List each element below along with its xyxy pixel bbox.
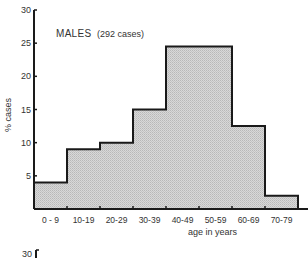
x-tick-label: 60-69 — [238, 215, 260, 225]
chart-title: MALES — [56, 28, 91, 39]
x-tick-label: 40-49 — [172, 215, 194, 225]
histogram-bar — [265, 196, 299, 209]
x-tick-label: 30-39 — [139, 215, 161, 225]
next-panel-axis — [36, 250, 39, 258]
histogram-bar — [166, 46, 200, 209]
histogram-bar — [199, 46, 233, 209]
y-tick-label: 10 — [21, 138, 31, 148]
histogram-bar — [100, 143, 134, 209]
histogram-bar — [133, 110, 167, 210]
y-tick-label: 15 — [21, 105, 31, 115]
chart-subtitle: (292 cases) — [97, 29, 144, 39]
y-tick-label: 25 — [21, 38, 31, 48]
histogram-chart: 510152025300 - 910-1920-2930-3940-4950-5… — [0, 0, 308, 258]
y-tick-label: 20 — [21, 71, 31, 81]
x-tick-label: 70-79 — [271, 215, 293, 225]
next-panel-ytick: 30 — [22, 249, 32, 258]
histogram-bar — [67, 149, 101, 209]
x-tick-label: 50-59 — [205, 215, 227, 225]
histogram-bar — [232, 126, 266, 209]
histogram-bar — [34, 182, 68, 209]
y-tick-label: 30 — [21, 5, 31, 15]
y-tick-label: 5 — [26, 171, 31, 181]
x-tick-label: 10-19 — [73, 215, 95, 225]
x-tick-label: 20-29 — [106, 215, 128, 225]
x-axis-label: age in years — [188, 227, 238, 237]
x-tick-label: 0 - 9 — [42, 215, 59, 225]
y-axis-label: % cases — [3, 97, 13, 132]
